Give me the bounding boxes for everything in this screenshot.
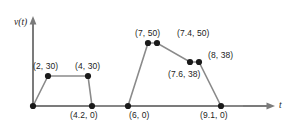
point-label-4-30: (4, 30) [75, 62, 100, 71]
data-point-6 [154, 40, 160, 46]
data-point-3 [89, 103, 95, 109]
x-axis-label: t [279, 101, 282, 111]
y-axis-arrowhead [30, 16, 37, 25]
velocity-time-chart: v(t) t (2, 30) (4, 30) (4.2, 0) (6, 0) (… [0, 0, 295, 132]
point-label-42-0: (4.2, 0) [70, 111, 98, 120]
x-axis-arrowhead [267, 103, 276, 110]
point-label-8-38: (8, 38) [208, 51, 233, 60]
data-point-2 [85, 73, 91, 79]
y-axis-label: v(t) [14, 18, 27, 28]
point-label-76-38: (7.6, 38) [168, 70, 201, 79]
data-point-9 [218, 103, 224, 109]
point-label-6-0: (6, 0) [129, 111, 149, 120]
data-point-5 [145, 40, 151, 46]
point-label-2-30: (2, 30) [33, 62, 58, 71]
data-point-7 [187, 59, 193, 65]
point-label-7-50: (7, 50) [135, 29, 160, 38]
point-label-91-0: (9.1, 0) [200, 111, 228, 120]
data-point-8 [196, 59, 202, 65]
data-point-1 [45, 73, 51, 79]
point-label-74-50: (7.4, 50) [177, 29, 210, 38]
data-point-4 [125, 103, 131, 109]
data-point-0 [30, 103, 36, 109]
